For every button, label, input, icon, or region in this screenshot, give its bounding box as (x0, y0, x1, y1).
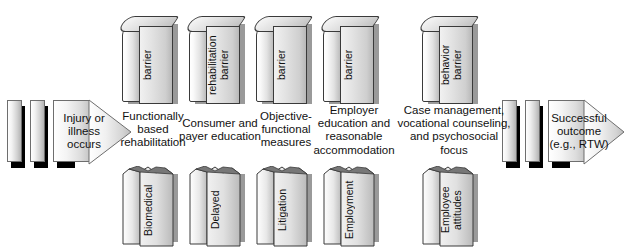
intact-barrier-block-1: barrier (120, 14, 182, 108)
intact-barrier-block-3: barrier (254, 14, 316, 108)
block-side-face (323, 28, 341, 102)
start-arrow-label: Injury or illness occurs (46, 112, 122, 151)
broken-barrier-label: Litigation (277, 178, 305, 242)
block-side-face (256, 28, 274, 102)
broken-barrier-label: Delayed (210, 178, 238, 242)
intact-barrier-label: barrier (343, 30, 371, 100)
intact-barrier-label: barrier (276, 30, 304, 100)
start-arrow-trail-1 (7, 100, 22, 162)
broken-barrier-block-3: Litigation (254, 166, 316, 250)
broken-barrier-block-2: Delayed (187, 166, 249, 250)
block-side-face (189, 28, 207, 102)
process-flow-diagram: Injury or illness occurs Successful outc… (0, 0, 625, 252)
broken-barrier-block-4: Employment (321, 166, 383, 250)
block-side-face (122, 28, 140, 102)
broken-barrier-label: Employment (344, 176, 372, 244)
intact-barrier-label: rehabilitation barrier (207, 30, 239, 100)
broken-barrier-label: Employee attitudes (440, 176, 474, 244)
step-caption-4: Employer education and reasonable accomm… (310, 104, 398, 157)
intact-barrier-label: barrier (142, 30, 170, 100)
step-caption-5: Case management, vocational counseling, … (396, 104, 512, 157)
broken-barrier-block-5: Employee attitudes (420, 166, 482, 250)
broken-barrier-block-1: Biomedical (120, 166, 182, 250)
block-side-face (422, 28, 440, 102)
intact-barrier-label: behavior barrier (440, 30, 472, 100)
end-arrow-label: Successful outcome (e.g., RTW) (537, 112, 621, 151)
intact-barrier-block-4: barrier (321, 14, 383, 108)
intact-barrier-block-2: rehabilitation barrier (187, 14, 249, 108)
intact-barrier-block-5: behavior barrier (420, 14, 482, 108)
start-arrow-trail-2 (30, 100, 45, 162)
broken-barrier-label: Biomedical (143, 178, 171, 242)
